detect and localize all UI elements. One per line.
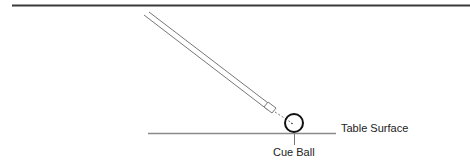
aim-line	[275, 112, 292, 123]
cue-ball-label: Cue Ball	[273, 146, 315, 158]
cue-stick	[144, 12, 276, 113]
cue-tip	[264, 102, 276, 113]
cue-ball-diagram	[0, 0, 470, 168]
ball-contact-point	[291, 123, 293, 125]
cue-ball	[285, 114, 303, 132]
table-surface-label: Table Surface	[341, 122, 408, 134]
